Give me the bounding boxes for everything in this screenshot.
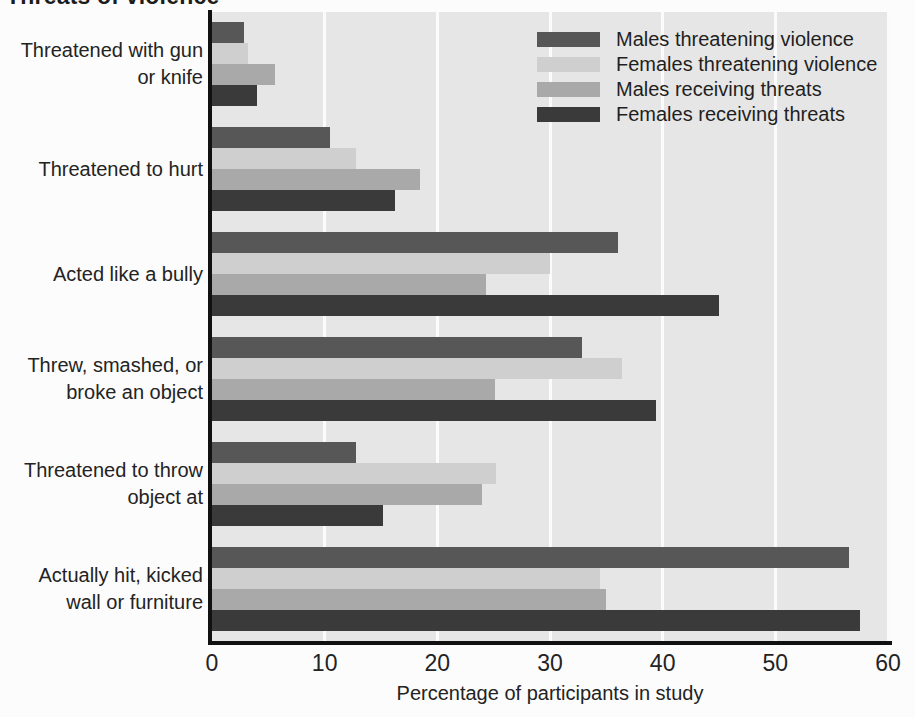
bar (212, 442, 356, 463)
y-axis-line (208, 10, 212, 643)
bar-group (212, 222, 888, 327)
bar (212, 22, 244, 43)
legend-label: Males threatening violence (616, 28, 854, 51)
bar-group (212, 117, 888, 222)
legend-label: Females receiving threats (616, 103, 845, 126)
category-label: Threatened to hurt (3, 156, 203, 183)
chart-title: Threats of violence (6, 0, 219, 10)
bar (212, 190, 395, 211)
category-label-line: Threatened to throw (3, 457, 203, 484)
legend-label: Females threatening violence (616, 53, 877, 76)
bar-group (212, 536, 888, 641)
bar (212, 232, 618, 253)
bar (212, 253, 550, 274)
bar (212, 610, 860, 631)
chart-legend: Males threatening violenceFemales threat… (537, 27, 907, 127)
bar (212, 43, 248, 64)
bar (212, 547, 849, 568)
bar (212, 148, 356, 169)
x-tick-label-30: 30 (537, 650, 563, 677)
bar (212, 337, 582, 358)
bar (212, 589, 606, 610)
category-label-line: Threw, smashed, or (3, 352, 203, 379)
category-label-line: wall or furniture (3, 589, 203, 616)
x-tick-label-40: 40 (650, 650, 676, 677)
bar (212, 85, 257, 106)
bar (212, 127, 330, 148)
x-axis-line (208, 641, 892, 645)
x-tick-label-20: 20 (425, 650, 451, 677)
bar (212, 400, 656, 421)
bar (212, 64, 275, 85)
category-label-line: broke an object (3, 379, 203, 406)
x-axis-title: Percentage of participants in study (212, 682, 888, 705)
bar-group (212, 431, 888, 536)
legend-item[interactable]: Females receiving threats (537, 102, 907, 127)
legend-item[interactable]: Males receiving threats (537, 77, 907, 102)
bar (212, 295, 719, 316)
bar-group (212, 327, 888, 432)
bar (212, 568, 600, 589)
bar (212, 358, 622, 379)
x-tick-label-60: 60 (875, 650, 901, 677)
legend-swatch-males-receiving-icon (537, 82, 600, 97)
x-tick-label-10: 10 (312, 650, 338, 677)
category-labels: Threatened with gunor knifeThreatened to… (0, 12, 203, 641)
category-label: Threatened with gunor knife (3, 37, 203, 91)
legend-swatch-females-receiving-icon (537, 107, 600, 122)
x-tick-label-50: 50 (763, 650, 789, 677)
category-label: Threatened to throwobject at (3, 457, 203, 511)
category-label-line: Actually hit, kicked (3, 562, 203, 589)
x-tick-label-0: 0 (206, 650, 219, 677)
chart-figure: Threats of violence Threatened with guno… (0, 0, 915, 717)
category-label-line: object at (3, 484, 203, 511)
category-label: Actually hit, kickedwall or furniture (3, 562, 203, 616)
category-label-line: or knife (3, 64, 203, 91)
category-label-line: Threatened with gun (3, 37, 203, 64)
bar (212, 169, 420, 190)
legend-swatch-females-threatening-icon (537, 57, 600, 72)
category-label: Threw, smashed, orbroke an object (3, 352, 203, 406)
category-label-line: Threatened to hurt (3, 156, 203, 183)
legend-label: Males receiving threats (616, 78, 822, 101)
category-label-line: Acted like a bully (3, 261, 203, 288)
legend-item[interactable]: Females threatening violence (537, 52, 907, 77)
bar (212, 274, 486, 295)
bar (212, 505, 383, 526)
legend-item[interactable]: Males threatening violence (537, 27, 907, 52)
bar (212, 379, 495, 400)
legend-swatch-males-threatening-icon (537, 32, 600, 47)
category-label: Acted like a bully (3, 261, 203, 288)
bar (212, 463, 496, 484)
bar (212, 484, 482, 505)
